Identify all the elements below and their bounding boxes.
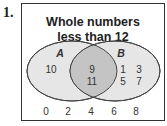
set-a-value: 10 [45, 64, 56, 75]
set-b-value: 3 [136, 64, 142, 75]
set-b-value: 7 [136, 76, 142, 87]
outside-value: 2 [65, 106, 71, 117]
outside-value: 6 [111, 106, 117, 117]
problem-number: 1. [3, 5, 14, 21]
set-b-label: B [117, 47, 125, 59]
universal-set-frame: Whole numbers less than 12 A B 10 9 11 1… [21, 3, 165, 121]
set-b-value: 1 [120, 64, 126, 75]
intersection-value: 9 [89, 64, 95, 75]
set-b-value: 5 [120, 76, 126, 87]
outside-value: 0 [43, 106, 49, 117]
outside-value: 4 [88, 106, 94, 117]
intersection-value: 11 [87, 76, 97, 87]
outside-value: 8 [133, 106, 139, 117]
set-a-label: A [56, 47, 64, 59]
